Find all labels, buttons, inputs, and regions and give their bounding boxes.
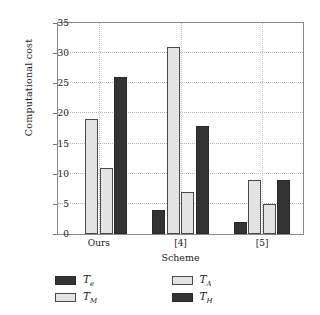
bar-TA-5 xyxy=(263,204,276,234)
legend-item-Te: Te xyxy=(55,272,154,289)
y-tick-label: 20 xyxy=(29,108,69,118)
y-tick-mark xyxy=(53,174,57,175)
legend-item-TM: TM xyxy=(55,289,154,306)
y-tick-label: 30 xyxy=(29,48,69,58)
y-tick-mark xyxy=(53,53,57,54)
y-tick-mark xyxy=(53,23,57,24)
y-tick-label: 0 xyxy=(29,229,69,239)
bar-TA-4 xyxy=(181,192,194,234)
y-tick-label: 10 xyxy=(29,169,69,179)
legend-swatch-icon xyxy=(55,293,76,302)
y-tick-mark xyxy=(53,113,57,114)
bar-TM-Ours xyxy=(85,119,98,234)
legend-item-TH: TH xyxy=(172,289,271,306)
y-tick-mark xyxy=(53,204,57,205)
plot-inner xyxy=(58,23,303,234)
bar-TM-4 xyxy=(167,47,180,234)
legend-swatch-icon xyxy=(172,276,193,285)
x-tick-label-5: [5] xyxy=(256,238,269,248)
bar-TH-Ours xyxy=(114,77,127,234)
y-tick-label: 25 xyxy=(29,78,69,88)
legend-swatch-icon xyxy=(55,276,76,285)
y-tick-mark xyxy=(53,234,57,235)
y-tick-label: 5 xyxy=(29,199,69,209)
chart-legend: TeTATMTH xyxy=(55,272,270,306)
y-tick-mark xyxy=(53,144,57,145)
bar-TH-5 xyxy=(277,180,290,234)
y-tick-mark xyxy=(53,83,57,84)
x-tick-label-Ours: Ours xyxy=(88,238,110,248)
bar-Te-5 xyxy=(234,222,247,234)
x-tick-label-4: [4] xyxy=(174,238,187,248)
plot-area xyxy=(57,22,304,235)
bar-TH-4 xyxy=(196,126,209,235)
bar-Te-4 xyxy=(152,210,165,234)
legend-swatch-icon xyxy=(172,293,193,302)
legend-label: TH xyxy=(200,290,213,305)
bar-TM-5 xyxy=(248,180,261,234)
y-tick-label: 15 xyxy=(29,139,69,149)
gridline-vertical xyxy=(262,23,263,234)
legend-label: TM xyxy=(83,290,97,305)
x-axis-title: Scheme xyxy=(57,252,304,263)
legend-label: TA xyxy=(200,273,212,288)
legend-item-TA: TA xyxy=(172,272,271,289)
legend-label: Te xyxy=(83,273,94,288)
bar-TA-Ours xyxy=(100,168,113,234)
y-tick-label: 35 xyxy=(29,18,69,28)
bar-chart-figure: Computational cost 05101520253035 Ours[4… xyxy=(0,0,320,315)
